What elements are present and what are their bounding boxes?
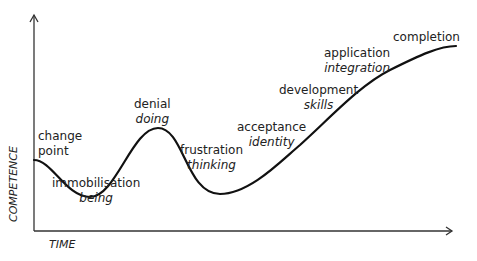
label-development: development skills [279,83,358,113]
stage-subtitle: skills [279,98,358,113]
label-completion: completion [393,30,460,45]
label-denial: denial doing [134,97,171,127]
label-frustration: frustration thinking [180,143,243,173]
label-change-point: change point [38,129,82,159]
x-axis-label: TIME [49,238,75,251]
stage-title: denial [134,97,171,112]
stage-subtitle: doing [134,112,171,127]
stage-subtitle: identity [237,135,306,150]
y-axis-label: COMPETENCE [7,146,20,222]
stage-subtitle: thinking [180,158,243,173]
stage-title: point [38,144,82,159]
stage-title: completion [393,30,460,45]
stage-title: development [279,83,358,98]
stage-title: application [324,46,390,61]
stage-title: change [38,129,82,144]
label-immobilisation: immobilisation being [52,176,140,206]
stage-title: frustration [180,143,243,158]
stage-subtitle: integration [324,61,390,76]
label-acceptance: acceptance identity [237,120,306,150]
stage-title: immobilisation [52,176,140,191]
stage-subtitle: being [52,191,140,206]
stage-title: acceptance [237,120,306,135]
label-application: application integration [324,46,390,76]
